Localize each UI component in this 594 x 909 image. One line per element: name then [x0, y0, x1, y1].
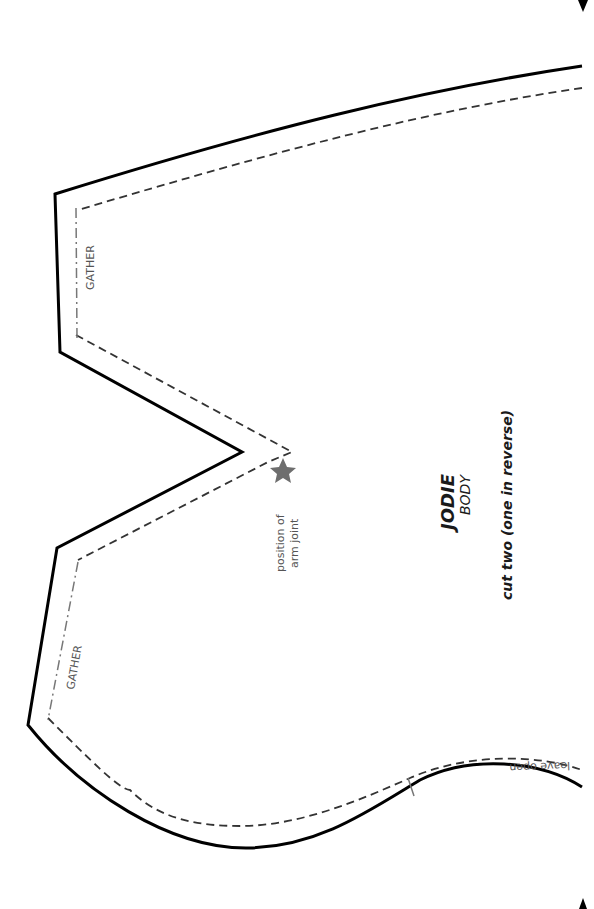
- seam-line-notch: [76, 335, 292, 560]
- arm-joint-label-line1: position of: [274, 513, 287, 572]
- seam-line: [78, 88, 582, 210]
- arm-joint-label-line2: arm joint: [288, 518, 301, 568]
- leave-open-label: leave open: [509, 759, 570, 774]
- pattern-piece: BODY: [457, 474, 473, 515]
- registration-mark-top-icon: [578, 0, 588, 12]
- registration-mark-bottom-icon: [579, 898, 587, 909]
- gather-label-bottom: GATHER: [64, 644, 85, 691]
- gather-label-top: GATHER: [84, 245, 97, 290]
- pattern-canvas: GATHER GATHER position of arm joint leav…: [0, 0, 594, 909]
- pattern-title: JODIE: [437, 473, 458, 533]
- star-icon: [270, 458, 296, 483]
- pattern-instruction: cut two (one in reverse): [499, 410, 515, 600]
- gather-line-bottom: [48, 562, 78, 720]
- gather-line-top: [76, 208, 77, 338]
